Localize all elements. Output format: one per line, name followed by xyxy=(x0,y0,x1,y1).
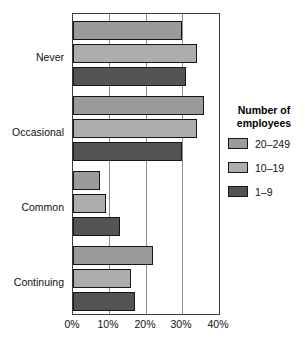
xtick-40: 40% xyxy=(198,318,238,331)
legend: Number of employees 20–249 10–19 1–9 xyxy=(228,104,305,206)
bar-continuing-10-19 xyxy=(73,269,131,288)
bar-occasional-20-249 xyxy=(73,96,204,115)
legend-label-20-249: 20–249 xyxy=(255,138,290,150)
xtick-20: 20% xyxy=(125,318,165,331)
legend-swatch-20-249 xyxy=(228,138,248,149)
legend-swatch-1-9 xyxy=(228,186,248,197)
category-label-never: Never xyxy=(0,51,64,63)
bar-common-20-249 xyxy=(73,171,100,190)
category-label-occasional: Occasional xyxy=(0,126,64,138)
category-label-common: Common xyxy=(0,201,64,213)
x-axis-tick-labels: 0% 10% 20% 30% 40% xyxy=(0,318,305,334)
category-axis-labels: Never Occasional Common Continuing xyxy=(0,13,68,313)
legend-item-10-19[interactable]: 10–19 xyxy=(228,158,305,177)
xtick-30: 30% xyxy=(161,318,201,331)
bar-occasional-1-9 xyxy=(73,142,182,161)
plot-area xyxy=(72,13,220,315)
legend-items: 20–249 10–19 1–9 xyxy=(228,134,305,201)
legend-title-line-2: employees xyxy=(228,117,300,130)
xtick-10: 10% xyxy=(88,318,128,331)
bar-never-20-249 xyxy=(73,21,182,40)
legend-label-1-9: 1–9 xyxy=(255,186,273,198)
legend-swatch-10-19 xyxy=(228,162,248,173)
bar-common-10-19 xyxy=(73,194,106,213)
xtick-0: 0% xyxy=(52,318,92,331)
bar-never-1-9 xyxy=(73,67,186,86)
bar-never-10-19 xyxy=(73,44,197,63)
bar-occasional-10-19 xyxy=(73,119,197,138)
legend-item-1-9[interactable]: 1–9 xyxy=(228,182,305,201)
legend-title: Number of employees xyxy=(228,104,300,129)
legend-item-20-249[interactable]: 20–249 xyxy=(228,134,305,153)
category-label-continuing: Continuing xyxy=(0,276,64,288)
legend-title-line-1: Number of xyxy=(228,104,300,117)
bar-continuing-20-249 xyxy=(73,246,153,265)
bar-common-1-9 xyxy=(73,217,120,236)
bar-chart: Never Occasional Common Continuing 0% 10… xyxy=(0,0,305,353)
legend-label-10-19: 10–19 xyxy=(255,162,284,174)
bar-continuing-1-9 xyxy=(73,292,135,311)
